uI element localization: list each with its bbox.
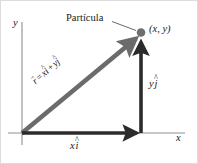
position-vector-arrow (22, 39, 136, 134)
leader-line (112, 22, 136, 31)
i-hat-icon: i (76, 141, 79, 152)
x-component-label: xi (70, 141, 78, 152)
y-component-label: yj (149, 79, 157, 90)
x-component-scalar: x (70, 140, 75, 151)
coordinates-label: (x, y) (149, 24, 171, 35)
position-vector-diagram: y x Partícula (x, y) xi yj r=xi+yj (0, 0, 198, 164)
particle-point (137, 28, 146, 37)
x-axis-label: x (176, 133, 181, 144)
j-hat-icon: j (155, 79, 158, 90)
y-axis-label: y (13, 18, 18, 29)
y-component-scalar: y (149, 78, 154, 89)
particle-label: Partícula (66, 13, 103, 24)
